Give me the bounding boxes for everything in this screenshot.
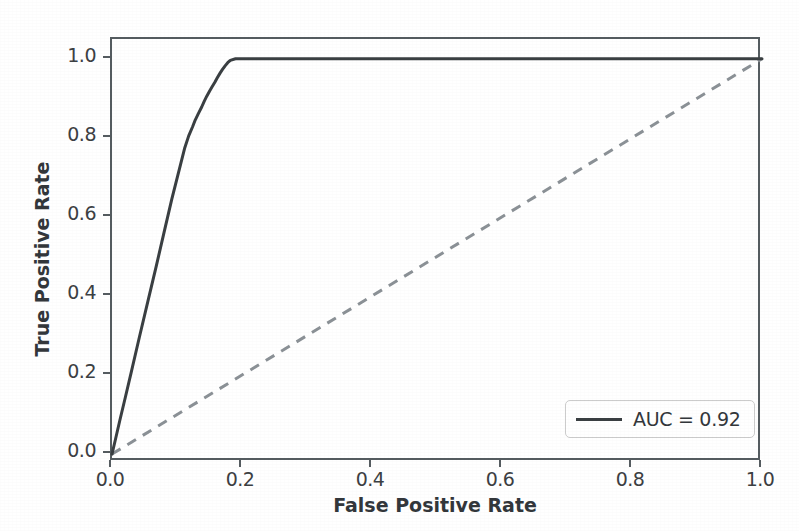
x-tick-label: 1.0 [720, 468, 799, 490]
x-tick-mark [239, 460, 241, 467]
plot-area [110, 37, 760, 460]
x-tick-mark [109, 460, 111, 467]
x-tick-mark [499, 460, 501, 467]
y-tick-label: 0.8 [18, 123, 96, 145]
y-tick-mark [103, 56, 110, 58]
x-axis-title: False Positive Rate [110, 494, 760, 516]
x-tick-label: 0.6 [460, 468, 540, 490]
x-tick-mark [759, 460, 761, 467]
x-tick-mark [369, 460, 371, 467]
x-tick-label: 0.0 [70, 468, 150, 490]
y-tick-label: 0.2 [18, 360, 96, 382]
y-tick-label: 1.0 [18, 44, 96, 66]
series-layer [112, 59, 762, 454]
y-tick-label: 0.6 [18, 202, 96, 224]
plot-svg [112, 39, 762, 462]
y-tick-label: 0.0 [18, 439, 96, 461]
y-axis-title: True Positive Rate [31, 162, 53, 357]
y-tick-mark [103, 293, 110, 295]
x-tick-label: 0.4 [330, 468, 410, 490]
y-tick-mark [103, 214, 110, 216]
x-tick-mark [629, 460, 631, 467]
x-tick-label: 0.2 [200, 468, 280, 490]
legend-box: AUC = 0.92 [565, 400, 755, 438]
y-axis-title-wrapper: True Positive Rate [31, 139, 53, 379]
y-tick-mark [103, 372, 110, 374]
y-tick-mark [103, 135, 110, 137]
x-tick-label: 0.8 [590, 468, 670, 490]
roc-curve-figure: 0.00.20.40.60.81.0 0.00.20.40.60.81.0 Fa… [0, 0, 799, 531]
y-tick-label: 0.4 [18, 281, 96, 303]
legend-line-swatch [576, 418, 622, 421]
legend-label-auc: AUC = 0.92 [633, 408, 740, 430]
y-tick-mark [103, 451, 110, 453]
chance-diagonal-line [112, 59, 762, 454]
